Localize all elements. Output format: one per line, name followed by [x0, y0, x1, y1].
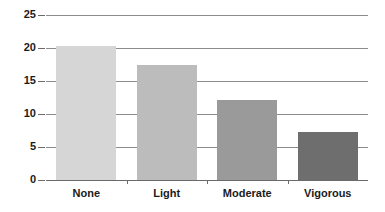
y-axis-tick-mark [38, 81, 45, 82]
y-axis-tick-label: 20 [0, 42, 36, 53]
x-axis-label-vigorous: Vigorous [288, 186, 369, 200]
bar-chart: 0510152025 NoneLightModerateVigorous [0, 0, 385, 212]
bar-moderate [217, 100, 277, 180]
bar-light [137, 65, 197, 180]
y-axis-tick-mark [38, 114, 45, 115]
y-axis-tick-label: 5 [0, 141, 36, 152]
x-axis-labels: NoneLightModerateVigorous [46, 186, 368, 204]
x-axis-tick-separator [127, 180, 128, 184]
x-axis-label-moderate: Moderate [207, 186, 288, 200]
y-axis-tick-label-text: 0 [2, 174, 36, 185]
y-axis-tick-label: 15 [0, 75, 36, 86]
y-axis-tick-mark [38, 15, 45, 16]
y-axis-tick-label-text: 25 [2, 9, 36, 20]
x-axis-label-light: Light [127, 186, 208, 200]
x-axis-tick-separator [207, 180, 208, 184]
y-axis-tick-mark [38, 147, 45, 148]
y-axis-tick-label-text: 10 [2, 108, 36, 119]
y-axis-tick-label: 0 [0, 174, 36, 185]
y-axis-tick-label: 25 [0, 9, 36, 20]
x-axis-label-none: None [46, 186, 127, 200]
y-axis-tick-label-text: 15 [2, 75, 36, 86]
y-axis-tick-mark [38, 180, 45, 181]
x-axis-tick-separator [288, 180, 289, 184]
y-axis-tick-mark [38, 48, 45, 49]
bar-none [56, 46, 116, 180]
bar-vigorous [298, 132, 358, 180]
y-axis-tick-label-text: 5 [2, 141, 36, 152]
bars-group [46, 15, 368, 180]
y-axis-tick-label-text: 20 [2, 42, 36, 53]
y-axis-tick-label: 10 [0, 108, 36, 119]
